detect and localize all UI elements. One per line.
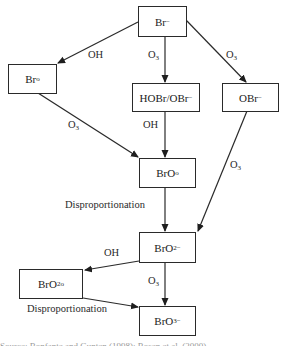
node-bro2-radical: BrO2o: [19, 269, 83, 299]
label-o3-bro2-to-bro3: O3: [148, 275, 159, 286]
node-br-radical: Bro: [8, 64, 57, 94]
node-base: BrO: [38, 278, 57, 290]
label-sub-3: 3: [156, 54, 160, 62]
node-base: OBr: [239, 92, 258, 104]
label-sub-3: 3: [234, 54, 238, 62]
label-disproportionation-bro2: Disproportionation: [27, 303, 107, 314]
node-base: Br: [155, 16, 166, 28]
node-bro-radical: BrOo: [139, 158, 196, 188]
node-br-minus: Br−: [138, 6, 187, 37]
node-base: BrO: [154, 315, 173, 327]
node-base: HOBr/OBr: [140, 92, 189, 104]
node-base: BrO: [154, 242, 173, 254]
label-o: O: [148, 275, 156, 286]
label-sub-3: 3: [156, 280, 160, 288]
node-bro3-minus: BrO3−: [139, 306, 196, 336]
label-o: O: [230, 159, 238, 170]
node-obr-minus: OBr−: [222, 83, 279, 112]
label-o: O: [148, 49, 156, 60]
arrow-br-radical-to-bro: [38, 93, 138, 157]
label-disproportionation-bro: Disproportionation: [65, 199, 145, 210]
label-oh-hobr-to-bro: OH: [143, 119, 158, 130]
label-sub-3: 3: [76, 124, 80, 132]
label-o3-br-radical-to-bro: O3: [68, 119, 79, 130]
node-base: Br: [25, 73, 36, 85]
node-bro2-minus: BrO2−: [139, 232, 196, 263]
label-o3-obr-to-bro2: O3: [230, 159, 241, 170]
arrow-bro2-to-bro2-radical: [85, 261, 139, 270]
label-o: O: [226, 49, 234, 60]
label-sub-3: 3: [238, 164, 242, 172]
figure-caption: Source: Bonfante and Gunten (1998); Rose…: [0, 339, 285, 346]
label-o: O: [68, 119, 76, 130]
label-o3-br-to-hobr: O3: [148, 49, 159, 60]
label-oh-bro2-to-bro2-radical: OH: [104, 247, 119, 258]
node-base: BrO: [156, 167, 175, 179]
node-hobr-obr: HOBr/OBr−: [132, 83, 200, 112]
bromate-formation-diagram: Br− Bro HOBr/OBr− OBr− BrOo BrO2− BrO2o …: [0, 0, 285, 346]
label-oh-br-to-br-radical: OH: [88, 49, 103, 60]
label-o3-br-to-obr: O3: [226, 49, 237, 60]
